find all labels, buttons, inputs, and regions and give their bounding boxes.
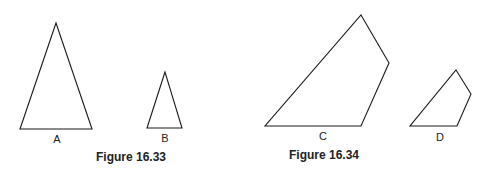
quadrilateral-d <box>410 70 471 126</box>
quadrilateral-c <box>265 15 389 126</box>
triangle-a <box>20 23 92 129</box>
caption-figure-16-34: Figure 16.34 <box>289 148 359 162</box>
label-d: D <box>436 131 444 143</box>
label-c: C <box>319 130 327 142</box>
caption-figure-16-33: Figure 16.33 <box>96 150 166 164</box>
figure-16-33: A B Figure 16.33 <box>20 23 182 164</box>
triangle-b <box>147 72 182 128</box>
label-a: A <box>53 133 61 145</box>
figure-canvas: A B Figure 16.33 C D Figure 16.34 <box>0 0 491 172</box>
figure-16-34: C D Figure 16.34 <box>265 15 471 162</box>
label-b: B <box>161 132 168 144</box>
